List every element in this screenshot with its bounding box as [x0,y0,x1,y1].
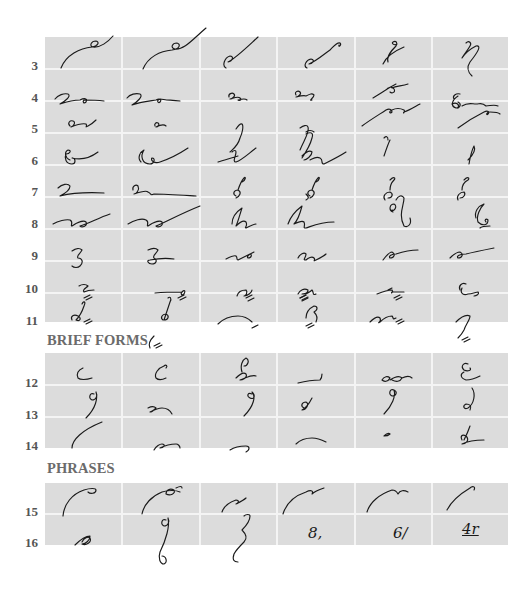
row-number: 8 [14,216,38,232]
row-divider [45,260,508,262]
column-divider [199,353,201,448]
row-number: 7 [14,184,38,200]
row-divider [45,132,508,134]
column-divider [121,37,123,322]
row-number: 16 [14,535,38,551]
column-divider [431,353,433,448]
row-divider [45,513,508,515]
row-number: 15 [14,504,38,520]
column-divider [276,353,278,448]
row-divider [45,100,508,102]
row-divider [45,68,508,70]
row-number: 4 [14,90,38,106]
row-divider [45,164,508,166]
row-number: 5 [14,121,38,137]
grid-section-brief-forms [45,353,508,448]
row-number: 9 [14,248,38,264]
grid-section-phrases [45,483,508,545]
grid-section-words [45,37,508,322]
phrase-numeral: 6/ [393,524,408,542]
row-divider [45,228,508,230]
phrase-numeral: 4r [462,520,479,538]
row-number: 3 [14,58,38,74]
row-divider [45,384,508,386]
row-divider [45,292,508,294]
shorthand-practice-page: 3 4 5 6 7 8 9 10 11 BRIEF FORMS 12 13 14… [0,0,531,594]
row-number: 13 [14,407,38,423]
row-divider [45,196,508,198]
column-divider [354,37,356,322]
row-number: 10 [14,281,38,297]
section-title-brief-forms: BRIEF FORMS [47,332,148,349]
phrase-numeral: 8, [308,524,322,542]
section-title-phrases: PHRASES [47,460,115,477]
row-number: 11 [14,313,38,329]
row-number: 12 [14,375,38,391]
row-number: 6 [14,153,38,169]
column-divider [431,37,433,322]
column-divider [354,353,356,448]
row-number: 14 [14,438,38,454]
column-divider [121,353,123,448]
column-divider [199,37,201,322]
row-divider [45,416,508,418]
column-divider [276,37,278,322]
